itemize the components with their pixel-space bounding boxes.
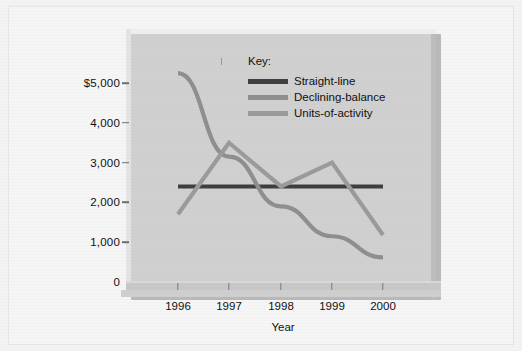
legend-item: Units-of-activity	[248, 106, 385, 120]
legend-title: Key:	[248, 55, 385, 67]
legend-swatch-icon	[248, 79, 288, 84]
legend-item-label: Straight-line	[294, 75, 355, 87]
legend-item: Straight-line	[248, 74, 385, 88]
legend-item-label: Declining-balance	[294, 91, 385, 103]
legend-swatch-icon	[248, 95, 288, 100]
plot-lines	[0, 0, 522, 351]
legend-item: Declining-balance	[248, 90, 385, 104]
legend-item-label: Units-of-activity	[294, 107, 373, 119]
legend: Key: Straight-lineDeclining-balanceUnits…	[248, 55, 385, 122]
legend-swatch-icon	[248, 111, 288, 116]
series-line-units-of-activity	[178, 143, 383, 235]
chart-screenshot: $5,0004,0003,0002,0001,0000 199619971998…	[0, 0, 522, 351]
